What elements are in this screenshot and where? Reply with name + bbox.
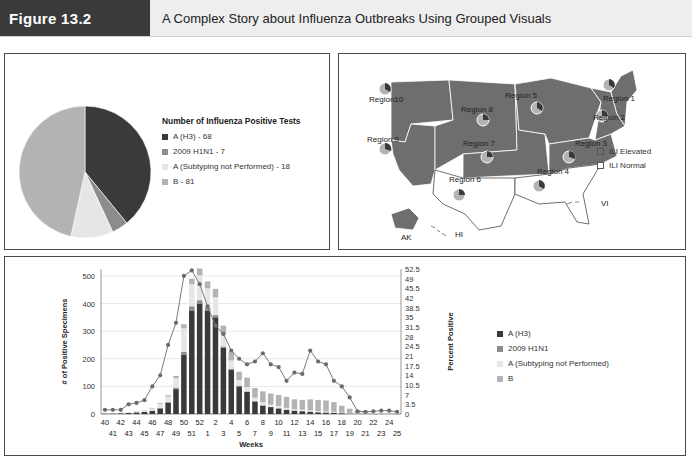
bar-segment xyxy=(323,412,329,413)
bar-segment xyxy=(307,412,313,414)
alaska-label: AK xyxy=(401,233,412,242)
y2-tick-label: 3.5 xyxy=(405,400,415,409)
bar-legend-item: B xyxy=(497,374,609,383)
bar-segment xyxy=(142,412,148,414)
bar-segment xyxy=(205,281,211,288)
map-legend-item: ILI Elevated xyxy=(597,147,651,156)
y2-tick-label: 7 xyxy=(405,391,409,400)
bar-segment xyxy=(102,413,108,414)
bar-segment xyxy=(213,289,219,297)
x-tick-label: 52 xyxy=(196,418,204,427)
region-9-label: Region 9 xyxy=(367,135,400,144)
bar-segment xyxy=(118,413,124,414)
bar-segment xyxy=(307,399,313,410)
bar-segment xyxy=(213,297,219,315)
line-point xyxy=(150,384,154,388)
bar-segment xyxy=(339,413,345,414)
line-point xyxy=(174,321,178,325)
y2-tick-label: 10.5 xyxy=(405,381,420,390)
x-tick-label: 11 xyxy=(283,429,291,438)
line-point xyxy=(332,379,336,383)
bar-segment xyxy=(236,372,242,380)
bar-segment xyxy=(165,395,171,396)
x-tick-label: 13 xyxy=(298,429,306,438)
x-tick-label: 46 xyxy=(148,418,156,427)
map-legend-item: ILI Normal xyxy=(597,161,651,170)
x-tick-label: 45 xyxy=(140,429,148,438)
bar-segment xyxy=(339,406,345,413)
virgin-islands-label: VI xyxy=(601,199,609,208)
bar-segment xyxy=(142,410,148,411)
swatch-h1n1 xyxy=(497,346,503,352)
bar-segment xyxy=(165,403,171,414)
line-point xyxy=(119,408,123,412)
bar-legend-item: 2009 H1N1 xyxy=(497,344,609,353)
line-point xyxy=(261,351,265,355)
x-tick-label: 23 xyxy=(377,429,385,438)
y2-tick-label: 21 xyxy=(405,352,413,361)
map-legend-label: ILI Normal xyxy=(609,161,646,170)
y2-tick-label: 42 xyxy=(405,294,413,303)
hawaii-islands xyxy=(431,226,446,236)
bar-segment xyxy=(260,391,266,402)
bar-segment xyxy=(173,388,179,389)
x-tick-label: 51 xyxy=(188,429,196,438)
bar-segment xyxy=(284,410,290,414)
line-point xyxy=(166,343,170,347)
x-tick-label: 5 xyxy=(237,429,241,438)
line-point xyxy=(371,409,375,413)
us-map-panel: Region 1 Region 2 Region 3 Region 4 Regi… xyxy=(338,53,686,250)
line-point xyxy=(395,410,399,414)
y-tick-label: 0 xyxy=(91,410,95,419)
bar-segment xyxy=(134,412,140,414)
bar-segment xyxy=(252,388,258,398)
pie-legend-item: A (H3) - 68 xyxy=(162,132,301,141)
line-point xyxy=(269,362,273,366)
y2-tick-label: 52.5 xyxy=(405,265,420,274)
map-legend: ILI Elevated ILI Normal xyxy=(597,147,651,175)
x-tick-label: 24 xyxy=(385,418,393,427)
region-2-label: Region 2 xyxy=(593,113,626,122)
line-point xyxy=(190,268,194,272)
line-point xyxy=(221,332,225,336)
bar-segment xyxy=(244,391,250,392)
bar-segment xyxy=(213,315,219,317)
line-point xyxy=(308,348,312,352)
bar-segment xyxy=(150,411,156,414)
x-tick-label: 25 xyxy=(393,429,401,438)
bar-segment xyxy=(268,394,274,405)
line-point xyxy=(182,274,186,278)
x-tick-label: 7 xyxy=(253,429,257,438)
swatch-a-h3 xyxy=(162,134,168,140)
x-tick-label: 43 xyxy=(124,429,132,438)
bar-segment xyxy=(379,413,385,414)
y-tick-label: 500 xyxy=(82,272,95,281)
line-point xyxy=(158,373,162,377)
pie-legend-label: 2009 H1N1 - 7 xyxy=(173,147,225,156)
bar-segment xyxy=(331,412,337,413)
bar-segment xyxy=(229,369,235,370)
bar-segment xyxy=(300,410,306,411)
bar-segment xyxy=(292,399,298,409)
bar-segment xyxy=(347,413,353,414)
y2-tick-label: 45.5 xyxy=(405,284,420,293)
line-point xyxy=(284,379,288,383)
bar-segment xyxy=(213,317,219,414)
swatch-b xyxy=(162,179,168,185)
x-tick-label: 17 xyxy=(330,429,338,438)
bar-segment xyxy=(323,400,329,411)
figure-header: Figure 13.2 A Complex Story about Influe… xyxy=(0,0,692,36)
bar-segment xyxy=(268,405,274,407)
bar-segment xyxy=(150,408,156,409)
y2-tick-label: 31.5 xyxy=(405,323,420,332)
y2-tick-label: 14 xyxy=(405,371,413,380)
bar-legend-label: A (Subtyping not Performed) xyxy=(508,359,609,368)
pie-chart xyxy=(5,54,165,249)
line-point xyxy=(245,362,249,366)
x-tick-label: 6 xyxy=(245,418,249,427)
percent-positive-line xyxy=(105,270,397,411)
map-legend-label: ILI Elevated xyxy=(609,147,651,156)
region-10-label: Region10 xyxy=(369,95,404,104)
bar-segment xyxy=(173,389,179,414)
line-point xyxy=(355,409,359,413)
